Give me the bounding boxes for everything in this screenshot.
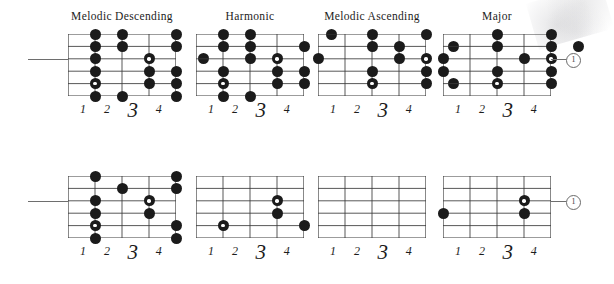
grid-lines-melodic-descending-lower [68,176,176,238]
fret-number-3: 3 [256,244,267,260]
fret-number-2: 2 [354,102,360,117]
fret-number-2: 2 [479,244,485,259]
fret-number-1: 1 [455,102,461,117]
fret-number-1: 1 [80,102,86,117]
grid-lines-melodic-descending-upper [68,34,176,96]
fret-number-4: 4 [284,244,290,259]
fret-number-4: 4 [156,244,162,259]
fret-number-4: 4 [531,102,537,117]
diagram-title-melodic-descending-upper: Melodic Descending [71,10,173,22]
fret-number-3: 3 [256,102,267,118]
grid-lines-melodic-ascending-upper [318,34,426,96]
fretboard-grid-harmonic-lower[interactable] [196,176,304,238]
fretboard-grid-major-upper[interactable] [443,34,551,96]
fretboard-diagram-melodic-descending-upper: Melodic Descending1234 [62,10,182,130]
fret-number-1: 1 [455,244,461,259]
fretboard-diagram-harmonic-lower: 1234 [190,152,310,272]
fret-number-1: 1 [330,244,336,259]
fret-number-1: 1 [208,244,214,259]
diagram-title-harmonic-upper: Harmonic [226,10,275,22]
grid-lines-major-upper [443,34,551,96]
fret-number-row-harmonic-lower: 1234 [196,244,304,266]
leader-line-melodic-descending-upper [28,59,68,60]
fretboard-diagram-melodic-ascending-upper: Melodic Ascending1234 [312,10,432,130]
fret-number-3: 3 [128,102,139,118]
fret-number-1: 1 [208,102,214,117]
leader-line-major-lower [551,201,566,202]
fretboard-grid-melodic-ascending-lower[interactable] [318,176,426,238]
fret-number-2: 2 [104,102,110,117]
fretboard-grid-melodic-descending-lower[interactable] [68,176,176,238]
fret-number-row-major-lower: 1234 [443,244,551,266]
fretboard-grid-major-lower[interactable] [443,176,551,238]
fretboard-diagram-major-upper: Major1234 [437,10,557,130]
fret-number-3: 3 [378,102,389,118]
fret-number-2: 2 [354,244,360,259]
fret-number-1: 1 [80,244,86,259]
fret-number-1: 1 [330,102,336,117]
fret-number-row-melodic-descending-lower: 1234 [68,244,176,266]
fret-number-3: 3 [378,244,389,260]
fret-number-2: 2 [232,244,238,259]
diagram-title-major-upper: Major [482,10,512,22]
fretboard-diagram-harmonic-upper: Harmonic1234 [190,10,310,130]
fret-number-2: 2 [104,244,110,259]
grid-lines-harmonic-lower [196,176,304,238]
grid-lines-harmonic-upper [196,34,304,96]
fret-number-row-melodic-ascending-lower: 1234 [318,244,426,266]
fretboard-grid-harmonic-upper[interactable] [196,34,304,96]
fret-number-4: 4 [406,102,412,117]
fret-number-2: 2 [479,102,485,117]
fret-number-4: 4 [531,244,537,259]
fret-number-4: 4 [284,102,290,117]
leader-line-major-upper [551,59,566,60]
fret-number-row-harmonic-upper: 1234 [196,102,304,124]
string-number-marker: 1 [566,195,581,210]
fret-number-row-melodic-ascending-upper: 1234 [318,102,426,124]
fret-number-3: 3 [503,102,514,118]
fretboard-grid-melodic-descending-upper[interactable] [68,34,176,96]
fret-number-4: 4 [406,244,412,259]
fretboard-grid-melodic-ascending-upper[interactable] [318,34,426,96]
note-dot [573,41,584,52]
fretboard-diagram-melodic-descending-lower: 1234 [62,152,182,272]
fret-number-3: 3 [503,244,514,260]
leader-line-melodic-descending-lower [28,201,68,202]
grid-lines-melodic-ascending-lower [318,176,426,238]
diagram-title-melodic-ascending-upper: Melodic Ascending [324,10,420,22]
fret-number-row-major-upper: 1234 [443,102,551,124]
fretboard-diagram-melodic-ascending-lower: 1234 [312,152,432,272]
fret-number-4: 4 [156,102,162,117]
fret-number-3: 3 [128,244,139,260]
fretboard-diagram-major-lower: 1234 [437,152,557,272]
fret-number-row-melodic-descending-upper: 1234 [68,102,176,124]
fret-number-2: 2 [232,102,238,117]
string-number-marker: 1 [566,53,581,68]
grid-lines-major-lower [443,176,551,238]
